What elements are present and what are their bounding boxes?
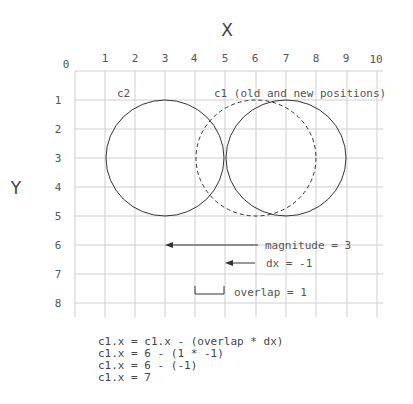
- c1-label: c1 (old and new positions): [214, 87, 386, 100]
- overlap-diagram: X Y 0 1 2 3 4 5 6 7 8 9 10: [0, 0, 413, 404]
- x-tick: 4: [191, 52, 198, 65]
- magnitude-label: magnitude = 3: [265, 239, 351, 252]
- x-tick: 7: [283, 52, 290, 65]
- x-tick: 3: [162, 52, 169, 65]
- x-tick: 6: [252, 52, 259, 65]
- y-tick: 4: [55, 181, 62, 194]
- c2-label: c2: [117, 87, 130, 100]
- x-tick: 0: [63, 58, 70, 71]
- y-tick: 7: [55, 268, 62, 281]
- dx-label: dx = -1: [266, 257, 312, 270]
- code-line: c1.x = 7: [98, 371, 151, 384]
- y-tick: 1: [55, 94, 62, 107]
- x-tick: 8: [313, 52, 320, 65]
- code-block: c1.x = c1.x - (overlap * dx) c1.x = 6 - …: [98, 335, 283, 384]
- x-tick: 10: [369, 53, 382, 66]
- x-tick: 2: [132, 52, 139, 65]
- y-axis-title: Y: [10, 178, 22, 198]
- x-axis-title: X: [221, 20, 233, 40]
- x-tick-labels: 0 1 2 3 4 5 6 7 8 9 10: [63, 52, 383, 71]
- y-tick: 8: [55, 297, 62, 310]
- magnitude-arrow: [165, 242, 258, 248]
- y-tick-labels: 1 2 3 4 5 6 7 8: [55, 94, 62, 310]
- y-tick: 6: [55, 239, 62, 252]
- y-tick: 3: [55, 152, 62, 165]
- x-tick: 9: [343, 52, 350, 65]
- grid-horizontal: [75, 71, 383, 303]
- y-tick: 2: [55, 123, 62, 136]
- y-tick: 5: [55, 210, 62, 223]
- overlap-label: overlap = 1: [234, 286, 307, 299]
- dx-arrow: [225, 260, 255, 266]
- overlap-bracket: [195, 286, 224, 294]
- x-tick: 1: [102, 52, 109, 65]
- x-tick: 5: [222, 52, 229, 65]
